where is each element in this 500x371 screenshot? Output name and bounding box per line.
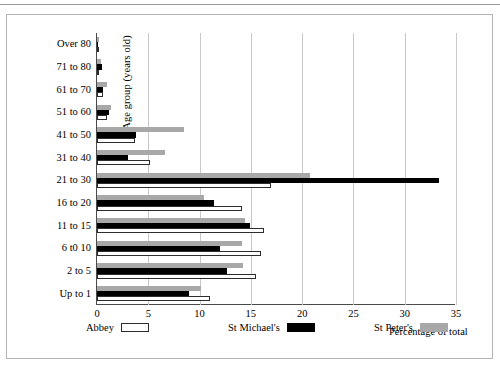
bar-group [97,282,455,305]
y-tick-label: 31 to 40 [57,153,91,164]
bar-group [97,237,455,260]
bar-abbey [97,115,107,120]
bar-abbey [97,296,210,301]
y-tick-label: Up to 1 [60,289,92,300]
legend-label: Abbey [86,322,114,333]
bar-group [97,214,455,237]
bar-abbey [97,47,99,52]
bar-abbey [97,138,135,143]
x-tick-label-25: 25 [338,308,368,319]
bar-group [97,124,455,147]
bar-abbey [97,228,264,233]
gridline-35 [456,33,457,305]
x-tick-label-0: 0 [82,308,112,319]
chart-figure: Age group (years old) Over 8071 to 8061 … [0,0,500,371]
y-tick-label: 2 to 5 [67,266,91,277]
y-tick-label: 21 to 30 [57,175,91,186]
top-rule [0,4,500,5]
bar-group [97,146,455,169]
bar-abbey [97,183,271,188]
x-tick-label-15: 15 [236,308,266,319]
legend-item[interactable]: St Michael's [228,322,315,333]
y-tick-label: 11 to 15 [57,221,91,232]
bar-group [97,56,455,79]
y-tick-label: 51 to 60 [57,107,91,118]
chart-border: Age group (years old) Over 8071 to 8061 … [6,14,493,359]
legend-swatch-icon [121,323,149,332]
bar-abbey [97,251,261,256]
x-tick-label-20: 20 [287,308,317,319]
y-tick-label: 6 t0 10 [62,243,91,254]
bar-group [97,101,455,124]
y-tick-label: 61 to 70 [57,85,91,96]
y-tick-label: Over 80 [57,39,91,50]
legend-item[interactable]: Abbey [86,322,149,333]
y-tick-label: 16 to 20 [57,198,91,209]
y-tick-label: 41 to 50 [57,130,91,141]
x-tick-label-10: 10 [185,308,215,319]
chart-legend: AbbeySt Michael'sSt Peter's [6,322,493,344]
legend-item[interactable]: St Peter's [374,322,448,333]
bar-abbey [97,206,242,211]
bar-group [97,192,455,215]
bar-group [97,33,455,56]
legend-swatch-icon [420,323,448,332]
bar-abbey [97,70,99,75]
x-tick-label-5: 5 [133,308,163,319]
legend-label: St Michael's [228,322,280,333]
bar-abbey [97,92,103,97]
bar-group [97,78,455,101]
plot-area: Age group (years old) Over 8071 to 8061 … [96,33,455,305]
x-tick-label-35: 35 [441,308,471,319]
x-tick-label-30: 30 [390,308,420,319]
bar-group [97,169,455,192]
bar-group [97,260,455,283]
y-tick-label: 71 to 80 [57,62,91,73]
bar-abbey [97,160,150,165]
legend-swatch-icon [287,323,315,332]
bar-abbey [97,274,256,279]
legend-label: St Peter's [374,322,413,333]
